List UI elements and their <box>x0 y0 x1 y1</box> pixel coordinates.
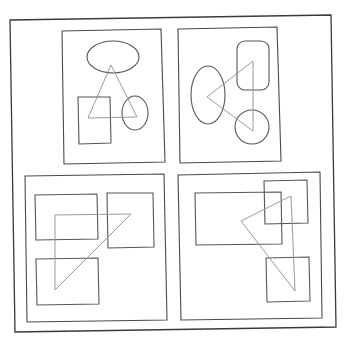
panel-border <box>25 174 167 322</box>
outer-frame <box>10 15 336 332</box>
panel-border <box>178 27 281 163</box>
rectangle-top-left <box>35 194 98 240</box>
panel-bottom-right <box>178 172 322 320</box>
rectangle-top-right <box>107 193 154 248</box>
triangle <box>55 214 131 290</box>
panel-top-right <box>178 27 281 163</box>
triangle <box>207 61 253 131</box>
rectangle-bottom-right <box>266 257 310 302</box>
circle-bottom <box>235 110 269 144</box>
panel-bottom-left <box>25 174 167 322</box>
triangle <box>241 196 295 291</box>
panel-top-left <box>62 29 165 164</box>
panel-border <box>178 172 322 320</box>
rectangle-top-right <box>264 180 308 224</box>
diagram-canvas <box>0 0 348 347</box>
rectangle-wide <box>195 192 282 245</box>
ellipse-left <box>191 66 225 124</box>
rectangle-bottom-left <box>36 258 99 305</box>
